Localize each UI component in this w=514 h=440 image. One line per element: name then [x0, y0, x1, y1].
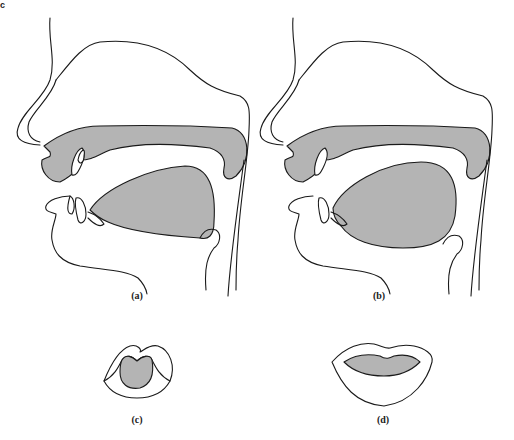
- mouth-opening-c: [120, 356, 153, 388]
- nasal-inner-b: [271, 80, 299, 142]
- panel-b-vocal-tract: [260, 18, 492, 296]
- panel-d-spread-lips: [332, 344, 432, 406]
- face-profile-b: [260, 18, 295, 145]
- panel-c-rounded-lips: [104, 346, 172, 398]
- lower-tooth-b: [318, 198, 329, 223]
- lower-tooth-a: [75, 198, 86, 223]
- tongue-b: [333, 162, 456, 248]
- nasal-inner-a: [28, 80, 56, 142]
- vocal-tract-diagram: [0, 0, 514, 440]
- panel-a-vocal-tract: [17, 18, 249, 296]
- face-profile-a: [17, 18, 52, 145]
- tongue-a: [90, 166, 214, 238]
- panel-label-c: (c): [131, 414, 142, 425]
- panel-label-d: (d): [377, 414, 389, 425]
- nasal-cavity-top-a: [56, 41, 249, 290]
- panel-label-a: (a): [131, 290, 143, 301]
- panel-label-b: (b): [373, 290, 385, 301]
- mouth-opening-d: [344, 355, 420, 376]
- lower-lip-top-a: [68, 196, 74, 214]
- epiglottis-b: [443, 235, 463, 294]
